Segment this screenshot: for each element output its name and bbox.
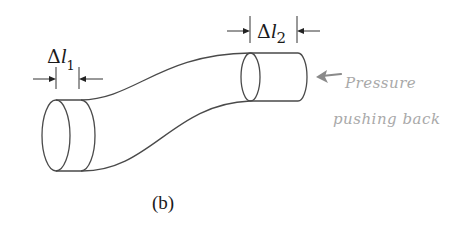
flow-tube-diagram: Δl1 Δl2 Pressure pushing back (b) (0, 0, 454, 229)
tube-body (81, 53, 250, 171)
dim-l1-right-arrowhead-icon (79, 76, 86, 82)
delta-l1-label: Δl1 (47, 44, 75, 73)
dim-l2-right-arrowhead-icon (297, 28, 304, 34)
right-segment-band (250, 53, 307, 101)
tube-lower-wall (81, 101, 250, 171)
annotation-line1: Pressure (344, 74, 416, 92)
right-cylinder-segment (241, 53, 307, 101)
dimension-delta-l2: Δl2 (227, 16, 320, 47)
figure-caption: (b) (152, 192, 174, 214)
left-front-face (42, 100, 70, 171)
right-inner-face (241, 53, 260, 101)
handwritten-annotation: Pressure pushing back (316, 70, 440, 128)
left-segment-band (56, 100, 95, 171)
annotation-line2: pushing back (333, 110, 440, 128)
delta-l2-label: Δl2 (257, 19, 286, 47)
tube-upper-wall (81, 53, 250, 100)
dimension-delta-l1: Δl1 (33, 44, 103, 89)
left-cylinder-segment (42, 100, 95, 171)
dim-l1-left-arrowhead-icon (49, 76, 56, 82)
dim-l2-left-arrowhead-icon (243, 28, 250, 34)
